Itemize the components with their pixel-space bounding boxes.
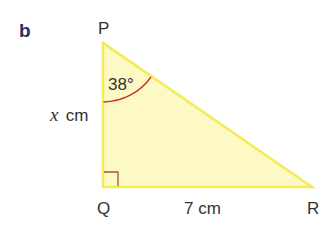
side-pq-unit: cm <box>66 106 89 125</box>
part-label: b <box>19 20 31 41</box>
vertex-label-q: Q <box>97 199 110 218</box>
triangle-diagram: b 38° P Q R x cm 7 cm <box>0 0 336 235</box>
angle-value-label: 38° <box>108 75 134 94</box>
side-pq-variable: x <box>49 104 59 125</box>
triangle-pqr <box>103 43 312 187</box>
side-pq-label: x cm <box>49 104 88 125</box>
vertex-label-p: P <box>98 19 109 38</box>
side-qr-label: 7 cm <box>184 199 221 218</box>
vertex-label-r: R <box>307 199 319 218</box>
